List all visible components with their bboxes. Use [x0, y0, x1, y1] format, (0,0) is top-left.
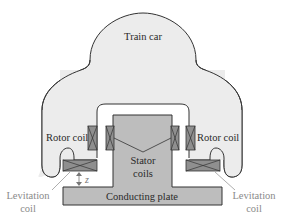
rotor-coil-right-label: Rotor coil — [197, 132, 239, 143]
stator-coil-right — [171, 126, 179, 150]
levitation-coil-left-label-2: coil — [20, 203, 36, 214]
stator-coils-label-1: Stator — [130, 155, 156, 166]
levitation-coil-left-label-1: Levitation — [6, 190, 50, 201]
maglev-diagram: Train car Rotor coil Rotor coil Stator c… — [0, 0, 287, 224]
gap-arrow-icon — [76, 172, 82, 186]
levitation-coil-right — [186, 160, 220, 171]
gap-variable-label: z — [84, 174, 89, 185]
train-car-label: Train car — [124, 31, 162, 42]
diagram-canvas: Train car Rotor coil Rotor coil Stator c… — [0, 0, 287, 224]
rotor-coil-right — [186, 126, 195, 150]
rotor-coil-left-label: Rotor coil — [46, 132, 88, 143]
conducting-plate-label: Conducting plate — [106, 191, 178, 202]
levitation-coil-right-label-1: Levitation — [232, 190, 276, 201]
stator-coil-left — [106, 126, 114, 150]
stator-coils-label-2: coils — [133, 168, 153, 179]
rotor-coil-left — [88, 126, 97, 150]
levitation-coil-right-label-2: coil — [246, 203, 262, 214]
levitation-coil-left — [63, 160, 97, 171]
